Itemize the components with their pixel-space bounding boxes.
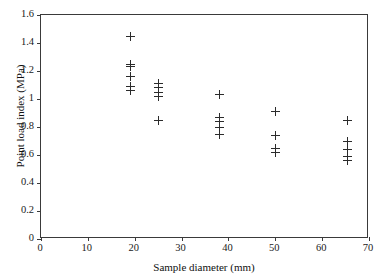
x-axis-tick-label: 40 <box>222 243 233 254</box>
plot-frame <box>40 14 368 238</box>
x-axis-tick <box>369 237 370 241</box>
x-axis-tick <box>88 237 89 241</box>
data-point-marker <box>126 86 135 95</box>
x-axis-tick-labels: 010203040506070 <box>40 243 368 257</box>
x-axis-tick <box>275 237 276 241</box>
x-axis-tick <box>182 237 183 241</box>
y-axis-tick-label: 1 <box>29 93 34 104</box>
y-axis-tick <box>37 99 41 100</box>
data-point-marker <box>154 92 163 101</box>
y-axis-tick <box>37 155 41 156</box>
x-axis-tick <box>322 237 323 241</box>
y-axis-tick <box>37 71 41 72</box>
plot-data-area <box>41 15 367 237</box>
x-axis-tick-label: 0 <box>37 243 42 254</box>
y-axis-title: Point load index (MPa) <box>14 36 26 196</box>
data-point-marker <box>126 62 135 71</box>
y-axis-tick-label: 1.6 <box>21 9 34 20</box>
data-point-marker <box>126 32 135 41</box>
x-axis-title: Sample diameter (mm) <box>40 261 368 273</box>
data-point-marker <box>271 131 280 140</box>
data-point-marker <box>343 116 352 125</box>
x-axis-tick <box>41 237 42 241</box>
y-axis-tick <box>37 183 41 184</box>
data-point-marker <box>154 116 163 125</box>
y-axis-title-wrapper: Point load index (MPa) <box>0 0 20 280</box>
x-axis-tick-label: 30 <box>175 243 186 254</box>
data-point-marker <box>126 72 135 81</box>
y-axis-tick <box>37 15 41 16</box>
data-point-marker <box>271 107 280 116</box>
x-axis-tick-label: 10 <box>82 243 93 254</box>
data-point-marker <box>215 90 224 99</box>
x-axis-tick-label: 60 <box>316 243 327 254</box>
x-axis-tick <box>228 237 229 241</box>
scatter-chart-figure: 00.20.40.60.811.21.41.6 Point load index… <box>0 0 386 280</box>
data-point-marker <box>215 130 224 139</box>
data-point-marker <box>343 156 352 165</box>
y-axis-tick <box>37 127 41 128</box>
data-point-marker <box>271 148 280 157</box>
x-axis-tick-label: 50 <box>269 243 280 254</box>
y-axis-tick <box>37 211 41 212</box>
y-axis-tick <box>37 43 41 44</box>
y-axis-tick-label: 0 <box>29 233 34 244</box>
x-axis-tick <box>135 237 136 241</box>
y-axis-tick-label: 0.2 <box>21 205 34 216</box>
x-axis-tick-label: 20 <box>128 243 139 254</box>
x-axis-tick-label: 70 <box>363 243 374 254</box>
